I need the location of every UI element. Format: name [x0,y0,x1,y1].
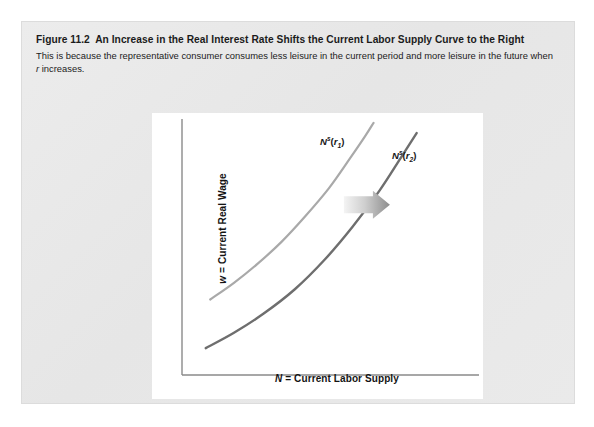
figure-caption-description: This is because the representative consu… [36,50,556,75]
figure-card: Figure 11.2 An Increase in the Real Inte… [21,21,575,404]
description-part-1: This is because the representative consu… [36,50,553,61]
y-axis-text: = Current Real Wage [217,173,228,276]
curve-label-ns-r2: Ns(r2) [392,149,416,163]
figure-title-text: An Increase in the Real Interest Rate Sh… [95,34,524,45]
rightward-shift-arrow [344,191,390,219]
x-axis-label: N = Current Labor Supply [197,373,477,384]
figure-root: Figure 11.2 An Increase in the Real Inte… [0,0,594,427]
ns-r1-base: N [320,136,327,147]
y-axis-symbol: w [217,276,228,284]
figure-number: Figure 11.2 [36,34,90,45]
x-axis-text: = Current Labor Supply [282,373,398,384]
figure-caption: Figure 11.2 An Increase in the Real Inte… [36,33,556,75]
curve-label-ns-r1: Ns(r1) [320,135,344,149]
ns-r2-base: N [392,150,399,161]
curve-labor-supply-r2 [206,133,417,348]
description-part-2: increases. [39,63,84,74]
y-axis-label: w = Current Real Wage [217,149,228,309]
figure-caption-title: Figure 11.2 An Increase in the Real Inte… [36,33,556,47]
plot-canvas [152,113,483,399]
plot-panel: Ns(r1) Ns(r2) w = Current Real Wage N = … [152,113,483,399]
